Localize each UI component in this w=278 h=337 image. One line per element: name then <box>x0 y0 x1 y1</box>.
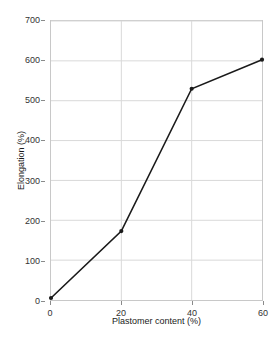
x-axis-title: Plastomer content (%) <box>50 316 263 327</box>
plot-area <box>50 20 263 301</box>
series-line <box>51 60 262 298</box>
y-tick-mark <box>41 221 45 222</box>
y-tick-mark <box>41 100 45 101</box>
data-series-elongation <box>51 21 262 300</box>
x-tick-mark <box>192 301 193 305</box>
x-tick-mark <box>121 301 122 305</box>
data-point-marker <box>260 58 264 62</box>
data-point-marker <box>49 296 53 300</box>
y-tick-mark <box>41 181 45 182</box>
y-tick-mark <box>41 140 45 141</box>
data-point-marker <box>190 87 194 91</box>
y-tick-mark <box>41 301 45 302</box>
chart-figure: 0100200300400500600700 Elongation (%) 02… <box>0 0 278 337</box>
y-axis-title: Elongation (%) <box>14 20 28 301</box>
y-tick-mark <box>41 261 45 262</box>
x-tick-mark <box>50 301 51 305</box>
y-tick-mark <box>41 60 45 61</box>
x-tick-mark <box>263 301 264 305</box>
y-tick-mark <box>41 20 45 21</box>
data-point-marker <box>119 229 123 233</box>
